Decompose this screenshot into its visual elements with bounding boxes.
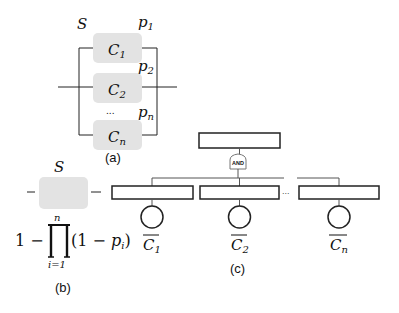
- formula-term: (1 − pi): [71, 231, 131, 251]
- panel-b-equivalent-system: S 1 − n i=1 (1 − pi) (b): [15, 158, 131, 295]
- caption-c: (c): [230, 261, 245, 276]
- top-event-box: [199, 133, 280, 148]
- event-box-1: [112, 186, 193, 199]
- basic-event-circle-2: [229, 206, 251, 228]
- system-s-label: S: [77, 15, 87, 33]
- formula-lower-bound: i=1: [48, 259, 66, 270]
- system-s-label-b: S: [54, 158, 64, 176]
- prob-p1-label: p1: [138, 13, 154, 32]
- panel-c-fault-tree: AND ... C1 C2 Cn (c): [112, 133, 379, 276]
- left-bracket: [79, 48, 93, 135]
- diagram-canvas: C1 C2 Cn S p1 p2 pn ... (a) S 1 − n: [0, 0, 399, 313]
- ellipsis: ...: [106, 106, 115, 116]
- basic-event-label-1: C1: [143, 236, 161, 255]
- reliability-formula: 1 − n i=1 (1 − pi): [15, 212, 131, 270]
- event-box-2: [200, 186, 279, 199]
- caption-a: (a): [105, 150, 121, 165]
- basic-event-label-n: Cn: [330, 236, 348, 255]
- formula-lead: 1 −: [15, 231, 44, 250]
- basic-event-label-2: C2: [231, 236, 249, 255]
- system-s-box: [39, 177, 88, 209]
- ellipsis-c: ...: [282, 187, 290, 196]
- basic-event-circle-1: [141, 206, 163, 228]
- prob-pn-label: pn: [138, 103, 154, 122]
- caption-b: (b): [55, 280, 71, 295]
- and-gate-label: AND: [232, 160, 244, 166]
- panel-a-parallel-system: C1 C2 Cn S p1 p2 pn ... (a): [58, 13, 177, 165]
- basic-event-circle-n: [328, 206, 350, 228]
- product-symbol: [48, 225, 70, 257]
- event-box-n: [299, 186, 379, 199]
- formula-upper-bound: n: [54, 212, 60, 223]
- prob-p2-label: p2: [138, 57, 154, 76]
